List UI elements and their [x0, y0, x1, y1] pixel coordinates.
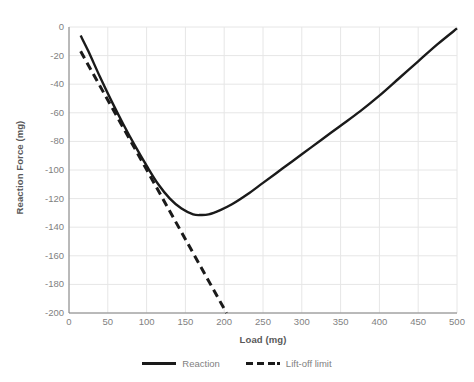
x-tick-label: 300 — [280, 316, 324, 327]
y-tick-label: -160 — [24, 251, 64, 261]
y-tick-label: -180 — [24, 279, 64, 289]
series-line-lift-off-limit — [81, 51, 227, 313]
x-tick-label: 450 — [396, 316, 440, 327]
plot-area — [69, 27, 457, 313]
legend-item[interactable]: Lift-off limit — [246, 358, 332, 369]
x-tick-label: 50 — [86, 316, 130, 327]
reaction-force-chart: Reaction Force (mg) 0-20-40-60-80-100-12… — [0, 0, 474, 382]
data-series — [81, 28, 457, 313]
x-tick-label: 500 — [435, 316, 474, 327]
legend-swatch-solid-icon — [142, 362, 176, 365]
legend-item[interactable]: Reaction — [142, 358, 220, 369]
y-tick-label: 0 — [24, 22, 64, 32]
legend-swatch-dashed-icon — [246, 362, 280, 365]
x-tick-label: 200 — [202, 316, 246, 327]
y-tick-label: -120 — [24, 194, 64, 204]
series-line-reaction — [81, 28, 457, 215]
chart-legend: ReactionLift-off limit — [0, 358, 474, 369]
y-tick-label: -60 — [24, 108, 64, 118]
y-tick-label: -100 — [24, 165, 64, 175]
y-tick-label: -20 — [24, 51, 64, 61]
y-tick-label: -40 — [24, 79, 64, 89]
x-tick-label: 350 — [319, 316, 363, 327]
legend-label: Lift-off limit — [286, 358, 332, 369]
x-tick-label: 100 — [125, 316, 169, 327]
legend-label: Reaction — [182, 358, 220, 369]
y-tick-label: -80 — [24, 136, 64, 146]
x-tick-label: 150 — [163, 316, 207, 327]
x-tick-label: 250 — [241, 316, 285, 327]
plot-svg — [69, 27, 457, 313]
grid-lines — [69, 27, 457, 313]
x-axis-title: Load (mg) — [69, 334, 457, 345]
y-tick-label: -140 — [24, 222, 64, 232]
x-tick-label: 400 — [357, 316, 401, 327]
x-tick-label: 0 — [47, 316, 91, 327]
